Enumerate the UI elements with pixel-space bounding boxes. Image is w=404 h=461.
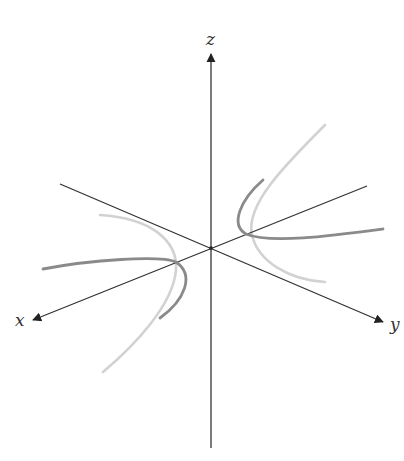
x-axis <box>33 186 367 320</box>
light-curve-right <box>251 125 325 282</box>
y-axis <box>60 184 383 322</box>
3d-coordinate-diagram: z x y <box>0 0 404 461</box>
z-axis-label: z <box>205 29 216 49</box>
light-curve-left <box>100 215 176 372</box>
y-axis-label: y <box>389 314 400 334</box>
origin <box>209 246 213 250</box>
x-axis-label: x <box>15 310 25 330</box>
